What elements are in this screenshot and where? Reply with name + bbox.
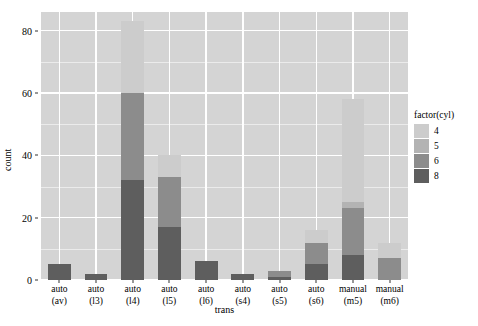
bar-stack bbox=[195, 261, 218, 280]
legend-swatch bbox=[414, 139, 429, 153]
bar-segment bbox=[378, 243, 401, 259]
bar-segment bbox=[342, 255, 365, 280]
x-tick-label-line1: auto bbox=[235, 284, 251, 296]
x-tick-label-line1: auto bbox=[271, 284, 287, 296]
x-tick-label-line1: auto bbox=[161, 284, 177, 296]
legend-title: factor(cyl) bbox=[414, 110, 476, 120]
bar-segment bbox=[378, 258, 401, 280]
bar-stack bbox=[378, 243, 401, 280]
bar-segment bbox=[305, 243, 328, 265]
gridline-major-x bbox=[205, 12, 206, 280]
legend-swatch bbox=[414, 154, 429, 168]
y-tick-label: 0 bbox=[27, 275, 32, 286]
x-axis-title: trans bbox=[41, 304, 408, 315]
bar-segment bbox=[158, 177, 181, 227]
bar-segment bbox=[305, 230, 328, 242]
y-tick-mark bbox=[35, 280, 38, 281]
plot-panel bbox=[41, 12, 408, 280]
x-tick-mark bbox=[169, 280, 170, 283]
y-tick-mark bbox=[35, 217, 38, 218]
x-tick-label-line1: manual bbox=[339, 284, 367, 296]
bar-segment bbox=[121, 93, 144, 180]
x-tick-mark bbox=[316, 280, 317, 283]
x-tick-mark bbox=[96, 280, 97, 283]
legend-item: 6 bbox=[414, 153, 476, 168]
bar-segment bbox=[342, 202, 365, 208]
bar-segment bbox=[158, 155, 181, 177]
stacked-bar-chart: count 020406080 auto(av)auto(l3)auto(l4)… bbox=[0, 0, 478, 326]
y-axis: 020406080 bbox=[14, 0, 38, 326]
y-tick-label: 60 bbox=[22, 88, 32, 99]
legend-item: 4 bbox=[414, 123, 476, 138]
legend: factor(cyl) 4568 bbox=[414, 110, 476, 183]
gridline-major-x bbox=[59, 12, 60, 280]
x-tick-label-line1: auto bbox=[198, 284, 214, 296]
x-tick-label-line1: manual bbox=[376, 284, 404, 296]
gridline-major-x bbox=[95, 12, 96, 280]
bar-segment bbox=[121, 21, 144, 93]
bar-stack bbox=[342, 99, 365, 280]
x-tick-mark bbox=[59, 280, 60, 283]
x-tick-label-line1: auto bbox=[125, 284, 141, 296]
legend-label: 4 bbox=[434, 126, 439, 136]
bar-stack bbox=[268, 271, 291, 280]
y-axis-title: count bbox=[0, 130, 14, 190]
legend-item: 5 bbox=[414, 138, 476, 153]
y-tick-label: 80 bbox=[22, 25, 32, 36]
x-tick-mark bbox=[132, 280, 133, 283]
legend-items: 4568 bbox=[414, 123, 476, 183]
bar-stack bbox=[305, 230, 328, 280]
legend-label: 8 bbox=[434, 171, 439, 181]
legend-swatch bbox=[414, 124, 429, 138]
legend-swatch bbox=[414, 169, 429, 183]
bar-segment bbox=[342, 99, 365, 202]
y-tick-mark bbox=[35, 155, 38, 156]
legend-label: 5 bbox=[434, 141, 439, 151]
y-tick-label: 40 bbox=[22, 150, 32, 161]
y-tick-label: 20 bbox=[22, 212, 32, 223]
bar-segment bbox=[342, 208, 365, 255]
x-tick-mark bbox=[242, 280, 243, 283]
y-tick-mark bbox=[35, 93, 38, 94]
gridline-major-x bbox=[389, 12, 390, 280]
legend-item: 8 bbox=[414, 168, 476, 183]
bar-stack bbox=[121, 21, 144, 280]
x-tick-mark bbox=[279, 280, 280, 283]
bar-segment bbox=[158, 227, 181, 280]
x-tick-label-line1: auto bbox=[308, 284, 324, 296]
gridline-major-x bbox=[242, 12, 243, 280]
x-tick-label-line1: auto bbox=[51, 284, 67, 296]
bar-segment bbox=[121, 180, 144, 280]
bar-stack bbox=[48, 264, 71, 280]
x-tick-mark bbox=[389, 280, 390, 283]
legend-label: 6 bbox=[434, 156, 439, 166]
gridline-major-x bbox=[279, 12, 280, 280]
y-tick-mark bbox=[35, 30, 38, 31]
bar-segment bbox=[195, 261, 218, 280]
x-tick-mark bbox=[206, 280, 207, 283]
bar-segment bbox=[48, 264, 71, 280]
bar-stack bbox=[158, 155, 181, 280]
bar-segment bbox=[268, 271, 291, 277]
bar-segment bbox=[305, 264, 328, 280]
x-tick-label-line1: auto bbox=[88, 284, 104, 296]
x-tick-mark bbox=[352, 280, 353, 283]
